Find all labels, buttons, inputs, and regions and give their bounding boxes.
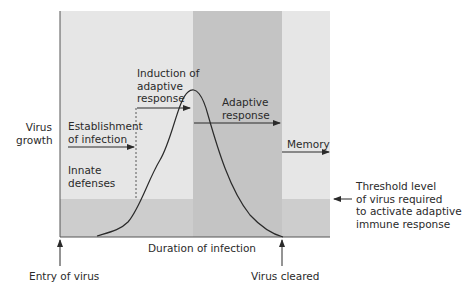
label-line: defenses <box>68 177 115 190</box>
label-line: adaptive <box>137 80 199 93</box>
y-axis-label-line: growth <box>16 134 52 147</box>
label-line: Adaptive <box>222 96 270 109</box>
label-line: immune response <box>356 218 462 231</box>
establishment-label: Establishment of infection <box>68 120 143 145</box>
label-line: Induction of <box>137 67 199 80</box>
label-line: response <box>222 109 270 122</box>
entry-label: Entry of virus <box>29 270 99 283</box>
adaptive-band <box>193 11 282 237</box>
label-line: of infection <box>68 133 143 146</box>
induction-label: Induction of adaptive response <box>137 67 199 105</box>
y-axis-label: Virus growth <box>16 121 52 146</box>
label-line: Threshold level <box>356 180 462 193</box>
x-axis-label: Duration of infection <box>148 242 256 255</box>
label-line: of virus required <box>356 193 462 206</box>
innate-label: Innate defenses <box>68 164 115 189</box>
threshold-label: Threshold level of virus required to act… <box>356 180 462 230</box>
y-axis-label-line: Virus <box>16 121 52 134</box>
label-line: Innate <box>68 164 115 177</box>
memory-label: Memory <box>287 138 330 151</box>
adaptive-label: Adaptive response <box>222 96 270 121</box>
label-line: Establishment <box>68 120 143 133</box>
cleared-label: Virus cleared <box>251 270 319 283</box>
label-line: response <box>137 92 199 105</box>
label-line: to activate adaptive <box>356 205 462 218</box>
